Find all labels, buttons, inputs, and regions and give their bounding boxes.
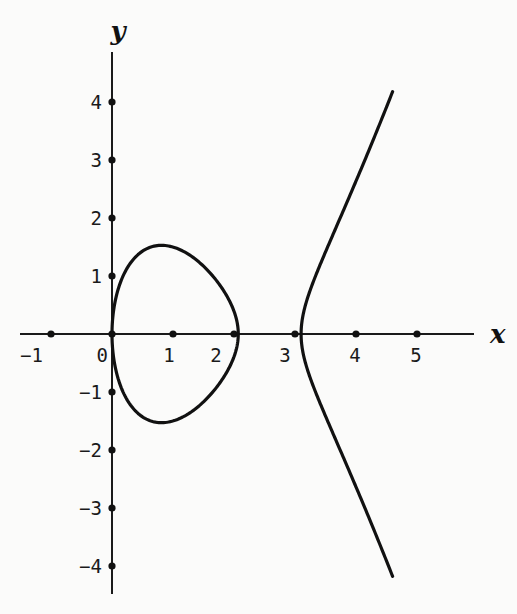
tick-label: 3 <box>91 149 102 171</box>
tick-dot <box>352 330 359 337</box>
tick-dot <box>230 330 237 337</box>
tick-dot <box>108 98 115 105</box>
tick-label: 2 <box>210 344 221 366</box>
tick-label: 4 <box>349 344 360 366</box>
tick-label: −1 <box>79 381 102 403</box>
tick-dot <box>413 330 420 337</box>
tick-label: 2 <box>91 207 102 229</box>
tick-label: 4 <box>91 91 102 113</box>
tick-dot <box>169 330 176 337</box>
tick-dot <box>108 272 115 279</box>
tick-label: −4 <box>79 555 102 577</box>
tick-label: −3 <box>79 497 102 519</box>
tick-dot <box>291 330 298 337</box>
tick-label: −2 <box>79 439 102 461</box>
tick-dot <box>108 388 115 395</box>
x-axis-label: x <box>489 319 506 349</box>
tick-label: 1 <box>91 265 102 287</box>
tick-dot <box>108 446 115 453</box>
x-ticks: −1012345 <box>20 330 422 366</box>
tick-dot <box>108 214 115 221</box>
tick-label: 1 <box>163 344 174 366</box>
tick-label: −1 <box>20 344 43 366</box>
elliptic-curve-chart: x y −1012345 −4−3−2−11234 <box>0 0 517 614</box>
tick-dot <box>108 156 115 163</box>
tick-dot <box>108 504 115 511</box>
tick-dot <box>108 562 115 569</box>
tick-dot <box>47 330 54 337</box>
tick-label: 3 <box>279 344 290 366</box>
y-axis-label: y <box>109 16 127 46</box>
tick-label: 5 <box>410 344 421 366</box>
tick-label: 0 <box>97 344 108 366</box>
